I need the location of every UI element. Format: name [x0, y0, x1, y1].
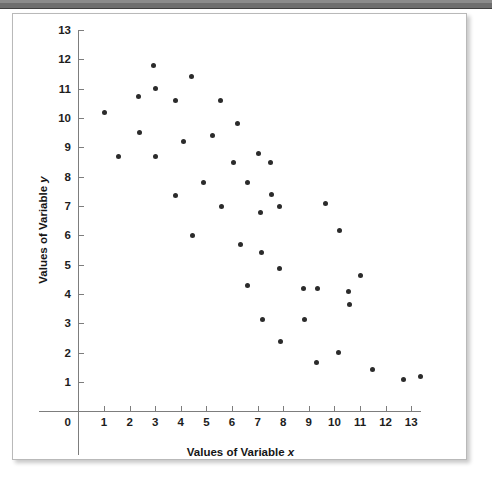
data-point — [268, 160, 273, 165]
y-tick-label-2: 2 — [47, 347, 71, 359]
x-tick-label-10: 10 — [322, 416, 346, 428]
data-point — [278, 339, 283, 344]
top-decoration-bar — [0, 0, 492, 9]
x-tick-label-9: 9 — [297, 416, 321, 428]
y-axis-title-text: Values of Variable — [37, 183, 49, 284]
data-point — [314, 360, 319, 365]
x-tick-11 — [360, 406, 361, 411]
y-tick-3 — [79, 323, 84, 324]
x-axis-line — [39, 411, 421, 412]
x-tick-label-1: 1 — [92, 416, 116, 428]
data-point — [137, 130, 142, 135]
x-tick-12 — [386, 406, 387, 411]
x-tick-4 — [181, 406, 182, 411]
data-point — [370, 367, 375, 372]
data-point — [358, 273, 363, 278]
data-point — [277, 204, 282, 209]
data-point — [346, 289, 351, 294]
x-tick-2 — [130, 406, 131, 411]
data-point — [401, 377, 406, 382]
x-tick-label-7: 7 — [246, 416, 270, 428]
y-axis-variable-symbol: y — [37, 176, 49, 182]
x-tick-13 — [411, 406, 412, 411]
top-decoration-bar-highlight — [0, 0, 492, 3]
x-tick-label-8: 8 — [271, 416, 295, 428]
data-point — [258, 210, 263, 215]
x-tick-label-12: 12 — [374, 416, 398, 428]
x-axis-title-text: Values of Variable — [187, 446, 288, 458]
x-tick-10 — [334, 406, 335, 411]
data-point — [116, 154, 121, 159]
data-point — [173, 193, 178, 198]
data-point — [235, 121, 240, 126]
data-point — [301, 286, 306, 291]
x-tick-3 — [155, 406, 156, 411]
data-point — [323, 201, 328, 206]
x-tick-label-2: 2 — [118, 416, 142, 428]
y-tick-label-9: 9 — [47, 141, 71, 153]
data-point — [269, 192, 274, 197]
y-tick-label-1: 1 — [47, 376, 71, 388]
data-point — [153, 154, 158, 159]
y-tick-1 — [79, 382, 84, 383]
data-point — [302, 317, 307, 322]
x-tick-9 — [309, 406, 310, 411]
data-point — [256, 151, 261, 156]
x-tick-label-6: 6 — [220, 416, 244, 428]
y-tick-12 — [79, 59, 84, 60]
x-tick-7 — [258, 406, 259, 411]
y-tick-label-10: 10 — [47, 112, 71, 124]
data-point — [277, 266, 282, 271]
y-tick-label-13: 13 — [47, 24, 71, 36]
y-tick-2 — [79, 353, 84, 354]
data-point — [151, 63, 156, 68]
data-point — [102, 110, 107, 115]
y-tick-6 — [79, 235, 84, 236]
y-tick-label-6: 6 — [47, 229, 71, 241]
x-tick-label-11: 11 — [348, 416, 372, 428]
y-tick-4 — [79, 294, 84, 295]
y-tick-13 — [79, 30, 84, 31]
x-axis-variable-symbol: x — [288, 446, 294, 458]
data-point — [218, 98, 223, 103]
data-point — [315, 286, 320, 291]
data-point — [418, 374, 423, 379]
y-tick-8 — [79, 177, 84, 178]
data-point — [347, 302, 352, 307]
origin-label: 0 — [47, 416, 71, 428]
x-tick-label-4: 4 — [169, 416, 193, 428]
y-tick-label-5: 5 — [47, 259, 71, 271]
data-point — [231, 160, 236, 165]
data-point — [238, 242, 243, 247]
x-tick-1 — [104, 406, 105, 411]
y-axis-title: Values of Variable y — [37, 130, 49, 330]
y-axis-line — [78, 30, 79, 455]
x-tick-label-3: 3 — [143, 416, 167, 428]
data-point — [245, 283, 250, 288]
data-point — [201, 180, 206, 185]
x-tick-6 — [232, 406, 233, 411]
y-tick-label-7: 7 — [47, 200, 71, 212]
data-point — [260, 317, 265, 322]
x-tick-label-13: 13 — [399, 416, 423, 428]
x-tick-8 — [283, 406, 284, 411]
data-point — [181, 139, 186, 144]
y-tick-5 — [79, 265, 84, 266]
data-point — [259, 250, 264, 255]
figure-panel: 12345678910111213 12345678910111213 0 Va… — [12, 13, 467, 460]
y-tick-label-4: 4 — [47, 288, 71, 300]
data-point — [136, 94, 141, 99]
y-tick-label-12: 12 — [47, 53, 71, 65]
y-tick-11 — [79, 89, 84, 90]
data-point — [210, 133, 215, 138]
y-tick-label-11: 11 — [47, 83, 71, 95]
data-point — [219, 204, 224, 209]
scatter-plot: 12345678910111213 12345678910111213 0 Va… — [13, 14, 468, 461]
y-tick-7 — [79, 206, 84, 207]
data-point — [173, 98, 178, 103]
y-tick-9 — [79, 147, 84, 148]
x-tick-label-5: 5 — [194, 416, 218, 428]
y-tick-label-8: 8 — [47, 171, 71, 183]
y-tick-label-3: 3 — [47, 317, 71, 329]
data-point — [337, 228, 342, 233]
